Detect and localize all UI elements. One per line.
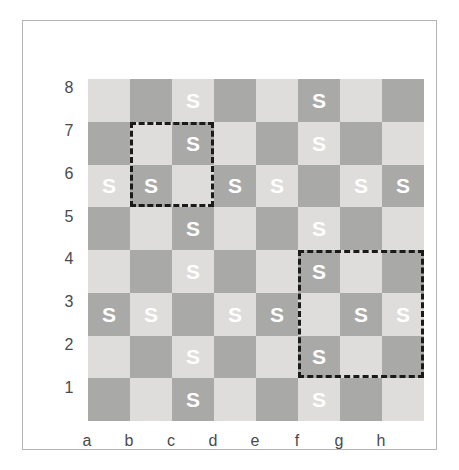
board-square-e5[interactable] [256, 207, 298, 250]
board-square-b6[interactable]: S [130, 165, 172, 208]
board-square-h5[interactable] [382, 207, 424, 250]
board-square-g6[interactable]: S [340, 165, 382, 208]
board-square-d2[interactable] [214, 336, 256, 379]
rank-label-6: 6 [59, 166, 79, 182]
board-square-e8[interactable] [256, 79, 298, 122]
board-square-g3[interactable]: S [340, 293, 382, 336]
square-mark-g6: S [354, 175, 368, 196]
board-square-f8[interactable]: S [298, 79, 340, 122]
board-square-f7[interactable]: S [298, 122, 340, 165]
board-square-f4[interactable]: S [298, 250, 340, 293]
board-square-g5[interactable] [340, 207, 382, 250]
board-square-e1[interactable] [256, 378, 298, 421]
rank-label-1: 1 [59, 380, 79, 396]
board-square-c2[interactable]: S [172, 336, 214, 379]
board-square-g1[interactable] [340, 378, 382, 421]
rank-label-7: 7 [59, 123, 79, 139]
board-square-h4[interactable] [382, 250, 424, 293]
square-mark-h6: S [396, 175, 410, 196]
rank-label-2: 2 [59, 337, 79, 353]
board-square-h1[interactable] [382, 378, 424, 421]
board-square-e2[interactable] [256, 336, 298, 379]
square-mark-h3: S [396, 304, 410, 325]
board-square-f2[interactable]: S [298, 336, 340, 379]
square-mark-e3: S [270, 304, 284, 325]
figure-frame: SSSSSSSSSSSSSSSSSSSSSSSS 87654321 abcdef… [22, 20, 437, 450]
board-square-f1[interactable]: S [298, 378, 340, 421]
board-square-c4[interactable]: S [172, 250, 214, 293]
square-mark-f1: S [312, 389, 326, 410]
rank-label-5: 5 [59, 209, 79, 225]
board-square-d3[interactable]: S [214, 293, 256, 336]
board-square-f3[interactable] [298, 293, 340, 336]
board-square-a7[interactable] [88, 122, 130, 165]
file-label-b: b [108, 433, 150, 449]
file-label-h: h [360, 433, 402, 449]
square-mark-c8: S [186, 90, 200, 111]
board-square-h3[interactable]: S [382, 293, 424, 336]
board-square-b5[interactable] [130, 207, 172, 250]
board-square-a5[interactable] [88, 207, 130, 250]
board-square-g8[interactable] [340, 79, 382, 122]
board-square-a3[interactable]: S [88, 293, 130, 336]
board-square-d4[interactable] [214, 250, 256, 293]
square-mark-d6: S [228, 175, 242, 196]
board-square-c6[interactable] [172, 165, 214, 208]
board-square-b1[interactable] [130, 378, 172, 421]
board-square-g4[interactable] [340, 250, 382, 293]
rank-label-3: 3 [59, 294, 79, 310]
board-square-b3[interactable]: S [130, 293, 172, 336]
board-square-a8[interactable] [88, 79, 130, 122]
square-mark-c5: S [186, 218, 200, 239]
board-square-d6[interactable]: S [214, 165, 256, 208]
board-square-h6[interactable]: S [382, 165, 424, 208]
square-mark-f4: S [312, 261, 326, 282]
board-square-a1[interactable] [88, 378, 130, 421]
board-square-g2[interactable] [340, 336, 382, 379]
square-mark-g3: S [354, 304, 368, 325]
square-mark-e6: S [270, 175, 284, 196]
square-mark-c4: S [186, 261, 200, 282]
square-mark-d3: S [228, 304, 242, 325]
board-square-b7[interactable] [130, 122, 172, 165]
board-square-e3[interactable]: S [256, 293, 298, 336]
square-mark-b3: S [144, 304, 158, 325]
square-mark-c7: S [186, 133, 200, 154]
board-square-e7[interactable] [256, 122, 298, 165]
board-square-d5[interactable] [214, 207, 256, 250]
board-square-e4[interactable] [256, 250, 298, 293]
board-square-c1[interactable]: S [172, 378, 214, 421]
board-square-h7[interactable] [382, 122, 424, 165]
board-square-c7[interactable]: S [172, 122, 214, 165]
chessboard-grid: SSSSSSSSSSSSSSSSSSSSSSSS [88, 79, 424, 421]
board-square-b2[interactable] [130, 336, 172, 379]
board-square-c8[interactable]: S [172, 79, 214, 122]
board-square-c3[interactable] [172, 293, 214, 336]
board-square-h2[interactable] [382, 336, 424, 379]
board-square-a4[interactable] [88, 250, 130, 293]
square-mark-c2: S [186, 346, 200, 367]
board-square-g7[interactable] [340, 122, 382, 165]
board-square-f6[interactable] [298, 165, 340, 208]
board-square-d7[interactable] [214, 122, 256, 165]
file-label-d: d [192, 433, 234, 449]
board-square-b8[interactable] [130, 79, 172, 122]
board-square-h8[interactable] [382, 79, 424, 122]
square-mark-a3: S [102, 304, 116, 325]
board-square-c5[interactable]: S [172, 207, 214, 250]
board-square-a2[interactable] [88, 336, 130, 379]
square-mark-f5: S [312, 218, 326, 239]
chessboard: SSSSSSSSSSSSSSSSSSSSSSSS [88, 79, 424, 421]
board-square-b4[interactable] [130, 250, 172, 293]
board-square-a6[interactable]: S [88, 165, 130, 208]
board-square-e6[interactable]: S [256, 165, 298, 208]
file-label-g: g [318, 433, 360, 449]
board-square-d8[interactable] [214, 79, 256, 122]
square-mark-a6: S [102, 175, 116, 196]
square-mark-f8: S [312, 90, 326, 111]
file-label-a: a [66, 433, 108, 449]
square-mark-f7: S [312, 133, 326, 154]
square-mark-b6: S [144, 175, 158, 196]
board-square-f5[interactable]: S [298, 207, 340, 250]
board-square-d1[interactable] [214, 378, 256, 421]
